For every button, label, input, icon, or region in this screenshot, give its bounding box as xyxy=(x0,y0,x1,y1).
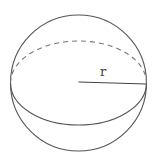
sphere-svg: r xyxy=(0,0,154,159)
sphere-diagram: r xyxy=(0,0,154,159)
equator-back-arc xyxy=(11,41,147,83)
radius-line xyxy=(79,82,147,84)
radius-label: r xyxy=(100,64,107,79)
equator-front-arc xyxy=(11,83,147,125)
